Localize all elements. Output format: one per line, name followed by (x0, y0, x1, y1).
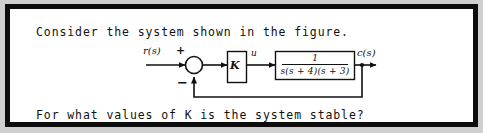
figure-frame: Consider the system shown in the figure. (5, 4, 478, 127)
input-signal-label: r(s) (143, 45, 161, 56)
summing-junction (186, 57, 203, 74)
transfer-function-expression: 1 s(s + 4)(s + 3) (278, 52, 352, 78)
transfer-function-denominator: s(s + 4)(s + 3) (281, 65, 350, 77)
summing-minus-sign: − (177, 75, 188, 90)
output-signal-label: c(s) (357, 47, 376, 58)
u-signal-label: u (251, 48, 257, 58)
transfer-function-numerator: 1 (312, 53, 318, 64)
question-prompt-bottom: For what values of K is the system stabl… (36, 108, 365, 122)
gain-block-label: K (230, 59, 240, 72)
summing-plus-sign: + (176, 44, 185, 57)
